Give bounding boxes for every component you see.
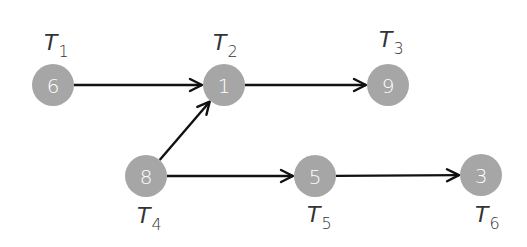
task-label-subscript: 4	[151, 215, 161, 234]
edge-t5-to-t6	[336, 169, 459, 181]
node-value: 3	[475, 164, 488, 188]
task-label-letter: T	[213, 30, 228, 55]
node-t1: 6T1	[32, 30, 74, 106]
node-value: 9	[382, 74, 395, 98]
node-value: 6	[47, 74, 60, 98]
edge-t4-to-t2	[160, 102, 210, 160]
task-label-subscript: 1	[58, 42, 68, 61]
task-label: T1	[44, 30, 69, 61]
task-label-letter: T	[475, 202, 490, 227]
task-label-letter: T	[379, 27, 394, 52]
edge-line	[336, 175, 459, 176]
node-value: 1	[218, 74, 231, 98]
node-t4: 8T4	[125, 155, 167, 234]
task-label: T3	[379, 27, 404, 58]
node-t3: 9T3	[367, 27, 409, 106]
task-label-subscript: 3	[393, 39, 403, 58]
task-label-letter: T	[307, 202, 322, 227]
task-label: T5	[307, 202, 332, 233]
task-label: T4	[137, 203, 162, 234]
node-t2: 1T2	[203, 30, 245, 106]
task-label-subscript: 5	[321, 214, 331, 233]
edge-line	[160, 102, 210, 160]
nodes-layer: 6T11T29T38T45T53T6	[32, 27, 502, 234]
edge-t1-to-t2	[74, 79, 202, 91]
edge-t2-to-t3	[245, 79, 366, 91]
node-value: 8	[140, 165, 153, 189]
task-label-subscript: 6	[489, 214, 499, 233]
node-t5: 5T5	[294, 155, 336, 233]
task-graph: 6T11T29T38T45T53T6	[0, 0, 527, 247]
task-label: T6	[475, 202, 500, 233]
task-label: T2	[213, 30, 238, 61]
task-label-letter: T	[137, 203, 152, 228]
task-label-letter: T	[44, 30, 59, 55]
edge-t4-to-t5	[167, 170, 293, 182]
task-label-subscript: 2	[227, 42, 237, 61]
node-t6: 3T6	[460, 154, 502, 233]
node-value: 5	[309, 165, 322, 189]
